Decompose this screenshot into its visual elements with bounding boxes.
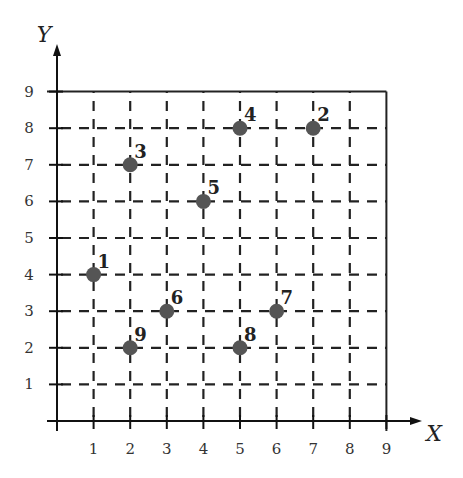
scatter-diagram: 123456789123456789YX123456789 [0,0,463,478]
x-axis-arrow-icon [410,417,422,425]
x-tick-label: 8 [345,440,355,458]
y-tick-label: 7 [24,156,34,174]
point-label: 9 [134,324,147,345]
y-tick-label: 6 [24,192,34,210]
point-label: 7 [281,287,294,308]
x-axis-label: X [424,421,443,446]
x-tick-label: 9 [382,440,392,458]
y-axis-label: Y [37,22,54,47]
y-tick-label: 5 [24,229,34,247]
y-tick-label: 4 [24,266,34,284]
y-tick-label: 2 [24,339,34,357]
x-tick-label: 1 [89,440,99,458]
point-label: 6 [171,287,184,308]
x-tick-label: 4 [199,440,209,458]
y-tick-label: 8 [24,119,34,137]
x-tick-label: 5 [235,440,245,458]
y-axis-arrow-icon [53,44,61,56]
point-label: 3 [134,141,147,162]
point-label: 4 [244,104,257,125]
x-tick-label: 7 [308,440,318,458]
point-label: 5 [207,177,220,198]
x-tick-label: 2 [125,440,135,458]
x-tick-label: 6 [272,440,282,458]
y-tick-label: 9 [24,83,34,101]
y-tick-label: 3 [24,302,34,320]
point-label: 2 [317,104,330,125]
point-label: 1 [98,251,111,272]
plot-canvas: 123456789123456789YX123456789 [0,0,463,478]
y-tick-label: 1 [24,375,34,393]
x-tick-label: 3 [162,440,172,458]
point-label: 8 [244,324,257,345]
